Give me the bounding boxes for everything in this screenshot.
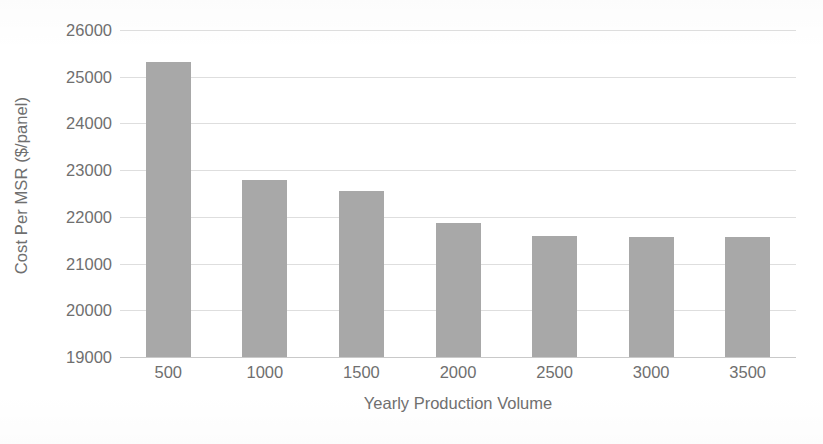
y-axis-title-label: Cost Per MSR ($/panel) <box>13 96 32 273</box>
bar <box>436 223 481 357</box>
bar <box>532 236 577 357</box>
bar <box>242 180 287 358</box>
gridline <box>120 357 796 358</box>
y-tick-label: 25000 <box>66 67 112 86</box>
bar <box>629 237 674 357</box>
plot-area <box>120 30 796 357</box>
y-tick-label: 24000 <box>66 114 112 133</box>
x-axis-title: Yearly Production Volume <box>120 394 796 413</box>
x-tick-label: 3000 <box>633 363 670 382</box>
y-axis-title: Cost Per MSR ($/panel) <box>0 0 44 370</box>
y-tick-label: 22000 <box>66 207 112 226</box>
bar <box>339 191 384 357</box>
x-axis-tick-labels: 500100015002000250030003500 <box>120 363 796 393</box>
x-tick-label: 2000 <box>440 363 477 382</box>
x-tick-label: 500 <box>155 363 183 382</box>
y-tick-label: 20000 <box>66 301 112 320</box>
y-tick-label: 21000 <box>66 254 112 273</box>
x-tick-label: 1000 <box>246 363 283 382</box>
x-tick-label: 3500 <box>729 363 766 382</box>
y-axis-tick-labels: 1900020000210002200023000240002500026000 <box>44 0 120 370</box>
bar <box>725 237 770 357</box>
x-tick-label: 2500 <box>536 363 573 382</box>
bar <box>146 62 191 357</box>
y-tick-label: 23000 <box>66 161 112 180</box>
bars-layer <box>120 30 796 357</box>
x-tick-label: 1500 <box>343 363 380 382</box>
y-tick-label: 26000 <box>66 21 112 40</box>
bar-chart-figure: Cost Per MSR ($/panel) 19000200002100022… <box>0 0 823 444</box>
y-tick-label: 19000 <box>66 348 112 367</box>
